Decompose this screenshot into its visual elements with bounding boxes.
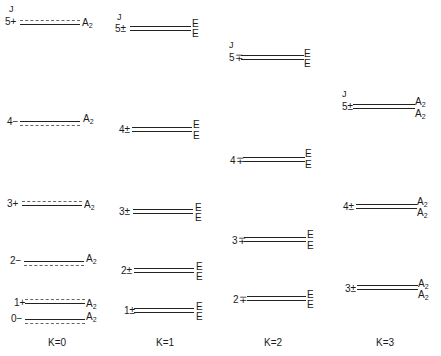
solid-level-line: [247, 296, 306, 297]
symmetry-label-bottom: E: [193, 131, 200, 141]
solid-level-line: [20, 121, 80, 122]
symmetry-label-bottom: E: [196, 312, 203, 322]
solid-level-line: [244, 241, 306, 242]
solid-level-line: [25, 319, 85, 320]
dashed-level-line: [20, 20, 80, 21]
solid-level-line: [241, 55, 304, 56]
solid-level-line: [25, 303, 85, 304]
level-label: 1+: [14, 298, 25, 308]
solid-level-line: [134, 312, 194, 313]
level-label: 3±: [119, 207, 130, 217]
k-label: K=1: [156, 338, 174, 348]
symmetry-label-top: E: [193, 120, 200, 130]
dashed-level-line: [20, 125, 80, 126]
symmetry-label-bottom: E: [304, 59, 311, 69]
solid-level-line: [353, 104, 415, 105]
solid-level-line: [357, 285, 418, 286]
symmetry-label-bottom: A2: [418, 290, 429, 303]
level-label: 5±: [115, 24, 126, 34]
dashed-level-line: [22, 201, 82, 202]
dashed-level-line: [25, 323, 85, 324]
level-label: 5±: [342, 102, 353, 112]
j-axis-label: J: [9, 5, 14, 14]
solid-level-line: [244, 237, 306, 238]
j-axis-label: J: [229, 41, 234, 50]
symmetry-label: A2: [82, 18, 93, 31]
symmetry-label-bottom: E: [192, 29, 199, 39]
solid-level-line: [133, 209, 193, 210]
solid-level-line: [134, 268, 194, 269]
solid-level-line: [132, 127, 192, 128]
level-label: 2∓: [233, 295, 247, 305]
symmetry-label-bottom: E: [196, 272, 203, 282]
level-label: 2−: [10, 256, 21, 266]
k-label: K=2: [264, 338, 282, 348]
level-label: 3+: [7, 199, 18, 209]
level-label: 5+: [5, 17, 16, 27]
solid-level-line: [134, 272, 194, 273]
symmetry-label-top: E: [307, 230, 314, 240]
k-label: K=3: [376, 338, 394, 348]
level-label: 4±: [343, 202, 354, 212]
solid-level-line: [243, 157, 305, 158]
solid-level-line: [134, 308, 194, 309]
solid-level-line: [130, 30, 191, 31]
level-label: 2±: [121, 266, 132, 276]
symmetry-label-bottom: A2: [417, 208, 428, 221]
solid-level-line: [356, 204, 417, 205]
symmetry-label-bottom: E: [307, 241, 314, 251]
solid-level-line: [132, 131, 192, 132]
symmetry-label: A2: [86, 312, 97, 325]
level-label: 4−: [7, 117, 18, 127]
solid-level-line: [356, 208, 417, 209]
symmetry-label-bottom: A2: [415, 109, 426, 122]
solid-level-line: [243, 161, 305, 162]
symmetry-label-bottom: E: [305, 160, 312, 170]
symmetry-label: A2: [86, 254, 97, 267]
solid-level-line: [133, 213, 193, 214]
symmetry-label-bottom: E: [307, 300, 314, 310]
solid-level-line: [22, 205, 82, 206]
solid-level-line: [241, 59, 304, 60]
symmetry-label: A2: [84, 200, 95, 213]
level-label: 4±: [119, 125, 130, 135]
dashed-level-line: [25, 299, 85, 300]
symmetry-label: A2: [83, 114, 94, 127]
j-axis-label: J: [117, 13, 122, 22]
level-label: 3±: [345, 284, 356, 294]
level-label: 4∓: [230, 156, 244, 166]
dashed-level-line: [24, 265, 84, 266]
solid-level-line: [24, 261, 84, 262]
symmetry-label-bottom: E: [195, 213, 202, 223]
j-axis-label: J: [342, 90, 347, 99]
solid-level-line: [130, 26, 191, 27]
symmetry-label-top: E: [305, 149, 312, 159]
level-label: 0−: [11, 314, 22, 324]
k-label: K=0: [48, 338, 66, 348]
solid-level-line: [357, 289, 418, 290]
solid-level-line: [247, 300, 306, 301]
solid-level-line: [20, 24, 80, 25]
solid-level-line: [353, 108, 415, 109]
